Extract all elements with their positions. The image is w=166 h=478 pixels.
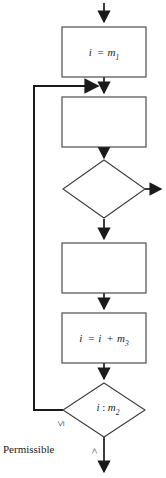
process-box-body-bottom[interactable] — [62, 243, 146, 293]
process-box-body-top[interactable] — [62, 97, 146, 147]
caption-permissible: Permissible — [3, 443, 54, 455]
flowchart-diagram: i = m1 i = i + m3 i:m2 ≤ > Permissible — [0, 0, 166, 478]
decision-diamond-test-upper[interactable] — [63, 160, 145, 218]
branch-label-exit: > — [88, 448, 100, 454]
branch-label-loop-back-group: ≤ — [54, 421, 66, 427]
branch-label-loop-back: ≤ — [54, 421, 66, 427]
flowchart-canvas: i = m1 i = i + m3 i:m2 ≤ > Permissible — [0, 0, 166, 478]
branch-label-exit-group: > — [88, 448, 100, 454]
